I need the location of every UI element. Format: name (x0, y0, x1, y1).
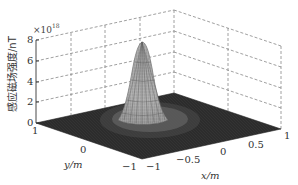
y-tick-neg1: −1 (122, 162, 137, 172)
x-tick-neg1: −1 (146, 162, 161, 172)
x-axis-label: x/m (201, 171, 220, 181)
z-tick-4: 4 (27, 77, 33, 87)
x-tick-0: 0 (220, 147, 226, 157)
x-tick-1: 1 (284, 131, 290, 141)
z-tick-6: 6 (27, 56, 33, 66)
z-axis-label: 感应磁场强度/nT (4, 36, 19, 112)
x-tick-05: 0.5 (248, 140, 264, 150)
z-multiplier: ×1018 (33, 22, 60, 35)
y-tick-0: 0 (80, 145, 86, 155)
z-tick-8: 8 (27, 35, 33, 45)
z-tick-2: 2 (27, 97, 33, 107)
x-tick-neg05: −0.5 (176, 155, 200, 165)
y-axis-label: y/m (64, 160, 83, 170)
y-tick-1: 1 (32, 126, 38, 136)
